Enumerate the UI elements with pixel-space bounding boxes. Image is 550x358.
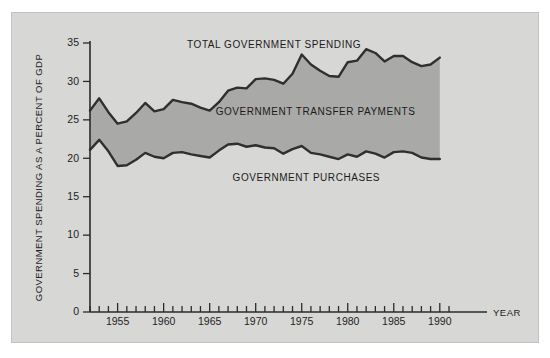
figure-canvas: 05101520253035 1955196019651970197519801… — [0, 0, 550, 358]
y-tick-label: 25 — [67, 113, 79, 125]
y-tick-label: 15 — [67, 190, 79, 202]
y-tick-label: 0 — [73, 305, 79, 317]
y-tick-label: 10 — [67, 228, 79, 240]
x-tick-label: 1985 — [382, 315, 406, 327]
x-tick-label: 1990 — [428, 315, 452, 327]
y-tick-label: 5 — [73, 267, 79, 279]
y-tick-label: 35 — [67, 36, 79, 48]
chart-panel: 05101520253035 1955196019651970197519801… — [11, 12, 539, 343]
y-axis-tick-labels: 05101520253035 — [67, 36, 79, 317]
x-axis-title: YEAR — [493, 307, 521, 318]
y-tick-label: 20 — [67, 152, 79, 164]
x-axis-ticks — [90, 303, 449, 312]
government-transfer-payments-label: GOVERNMENT TRANSFER PAYMENTS — [216, 106, 416, 117]
x-tick-label: 1970 — [244, 315, 268, 327]
y-tick-label: 30 — [67, 75, 79, 87]
x-tick-label: 1955 — [106, 315, 130, 327]
chart-svg: 05101520253035 1955196019651970197519801… — [12, 13, 538, 342]
x-tick-label: 1980 — [336, 315, 360, 327]
government-purchases-label: GOVERNMENT PURCHASES — [233, 172, 381, 183]
x-axis-tick-labels: 19551960196519701975198019851990 — [106, 315, 452, 327]
x-tick-label: 1965 — [198, 315, 222, 327]
x-tick-label: 1960 — [152, 315, 176, 327]
y-axis-ticks — [83, 43, 90, 312]
x-tick-label: 1975 — [290, 315, 314, 327]
total-government-spending-label: TOTAL GOVERNMENT SPENDING — [187, 39, 361, 50]
y-axis-title: GOVERNMENT SPENDING AS A PERCENT OF GDP — [33, 54, 44, 301]
